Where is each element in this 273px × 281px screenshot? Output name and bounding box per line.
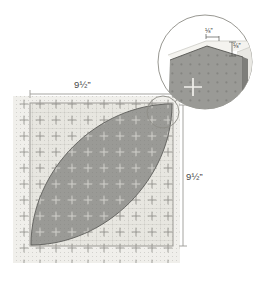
diagram-canvas: 9½” 9½” ⅛” ⅛” (0, 0, 273, 281)
dimension-label-width: 9½” (74, 79, 91, 90)
dimension-label-height: 9½” (186, 171, 203, 182)
detail-measure-label-side: ⅛” (233, 42, 241, 49)
detail-measure-label-top: ⅛” (205, 27, 213, 34)
